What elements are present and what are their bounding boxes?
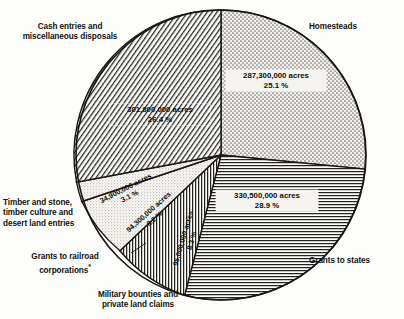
label-grants-to-states: Grants to states <box>309 256 401 266</box>
label-military-bounties: Military bounties and private land claim… <box>63 290 213 311</box>
value-grants-to-states: 330,500,000 acres 28.9 % <box>216 190 318 211</box>
label-grants-to-railroad: Grants to railroad corporations* <box>6 252 124 277</box>
footnote-asterisk: * <box>88 263 91 270</box>
pie-chart-figure: Cash entries and miscellaneous disposals… <box>0 0 404 319</box>
label-cash-entries: Cash entries and miscellaneous disposals <box>6 22 134 43</box>
label-homesteads: Homesteads <box>309 22 401 32</box>
value-homesteads: 287,300,000 acres 25.1 % <box>226 70 326 91</box>
value-cash-entries: 301,800,000 acres 26.4 % <box>110 104 210 125</box>
